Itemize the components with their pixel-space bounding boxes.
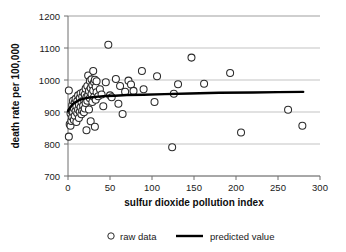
legend-raw-data-label: raw data: [120, 231, 157, 242]
data-point: [151, 99, 158, 106]
x-axis-title: sulfur dioxide pollution index: [124, 197, 264, 208]
data-point: [105, 41, 112, 48]
legend-predicted-label: predicted value: [210, 231, 274, 242]
data-point: [115, 100, 122, 107]
x-tick-label: 250: [270, 182, 286, 193]
data-point: [169, 144, 176, 151]
y-tick-label: 1100: [40, 43, 60, 54]
data-point: [65, 87, 72, 94]
legend-raw-data-marker-icon: [108, 233, 114, 239]
data-point: [117, 83, 124, 90]
data-point: [227, 69, 234, 76]
data-point: [140, 86, 147, 93]
data-point: [138, 68, 145, 75]
y-tick-label: 1200: [39, 11, 60, 22]
data-point: [188, 54, 195, 61]
data-point: [83, 127, 90, 134]
y-tick-label: 1000: [39, 75, 60, 86]
x-tick-label: 100: [144, 182, 160, 193]
y-tick-label: 800: [44, 139, 60, 150]
chart-canvas: 700800900100011001200 050100150200250300…: [0, 0, 346, 252]
data-point: [119, 110, 126, 117]
data-point: [93, 78, 100, 85]
x-tick-label: 150: [186, 182, 202, 193]
data-point: [91, 123, 98, 130]
data-point: [130, 87, 137, 94]
x-tick-label: 300: [312, 182, 328, 193]
x-tick-label: 200: [228, 182, 244, 193]
data-point: [65, 133, 72, 140]
data-point: [175, 81, 182, 88]
scatter-chart: 700800900100011001200 050100150200250300…: [0, 0, 346, 252]
data-point: [100, 103, 107, 110]
data-point: [90, 68, 97, 75]
chart-background: [0, 0, 346, 252]
data-point: [102, 79, 109, 86]
x-tick-label: 0: [65, 182, 70, 193]
data-point: [285, 106, 292, 113]
y-tick-label: 900: [44, 107, 60, 118]
y-axis-title: death rate per 100,000: [10, 43, 21, 148]
x-tick-label: 50: [105, 182, 116, 193]
y-tick-label: 700: [44, 171, 60, 182]
data-point: [201, 80, 208, 87]
data-point: [86, 106, 93, 113]
data-point: [112, 76, 119, 83]
data-point: [154, 73, 161, 80]
data-point: [238, 129, 245, 136]
data-point: [299, 122, 306, 129]
